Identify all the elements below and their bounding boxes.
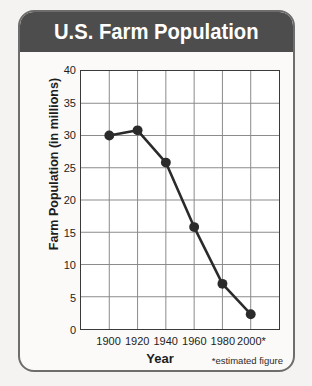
x-tick-label: 1960: [182, 335, 206, 347]
y-tick-label: 30: [50, 129, 76, 141]
plot-area: [80, 70, 280, 330]
x-tick-label: 1900: [96, 335, 120, 347]
y-tick-label: 15: [50, 227, 76, 239]
x-tick-label: 2000*: [237, 335, 266, 347]
y-tick-label: 35: [50, 97, 76, 109]
x-tick-label: 1920: [125, 335, 149, 347]
x-tick-label: 1940: [153, 335, 177, 347]
page-title: U.S. Farm Population: [54, 19, 259, 45]
chart-body: Farm Population (in millions) 4035302520…: [20, 52, 293, 372]
data-point: [161, 158, 171, 168]
data-point: [217, 279, 227, 289]
chart-card: U.S. Farm Population Farm Population (in…: [18, 10, 295, 372]
y-tick-label: 20: [50, 194, 76, 206]
y-tick-label: 5: [50, 292, 76, 304]
data-point: [246, 309, 256, 319]
y-tick-label: 10: [50, 259, 76, 271]
y-axis-tick-labels: 4035302520151050: [46, 70, 76, 330]
y-tick-label: 40: [50, 64, 76, 76]
y-tick-label: 0: [50, 324, 76, 336]
data-series-line: [81, 71, 279, 329]
data-point: [189, 222, 199, 232]
chart-footnote: *estimated figure: [212, 355, 283, 366]
x-axis-tick-labels: 190019201940196019802000*: [80, 335, 280, 351]
x-tick-label: 1980: [211, 335, 235, 347]
data-point: [133, 125, 143, 135]
chart-title-bar: U.S. Farm Population: [20, 12, 293, 52]
y-tick-label: 25: [50, 162, 76, 174]
data-point: [104, 131, 114, 141]
